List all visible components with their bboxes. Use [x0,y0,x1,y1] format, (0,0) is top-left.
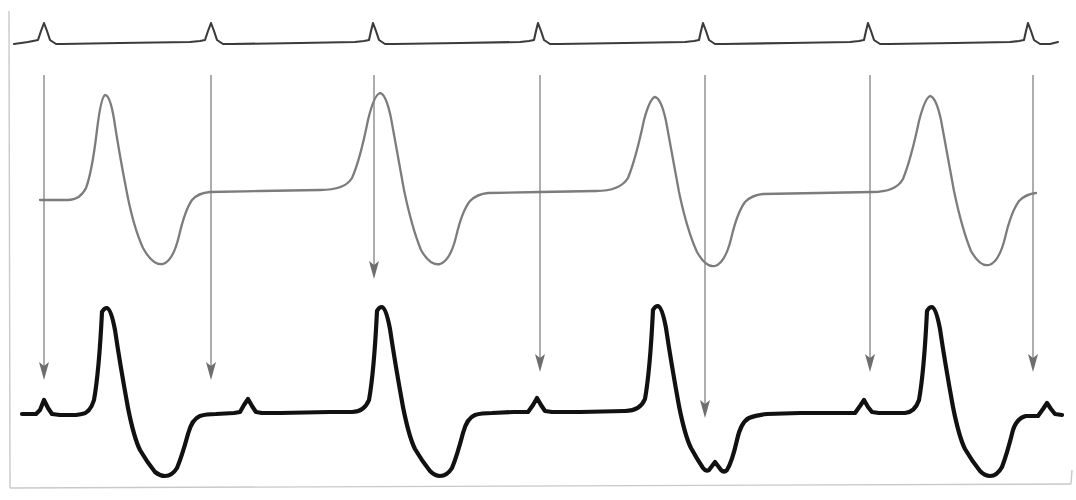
ecg-figure [0,0,1076,500]
conduction-arrow-1 [39,75,49,380]
conduction-arrow-5 [700,75,710,418]
ecg-canvas [0,0,1076,500]
surface-ecg-trace [22,306,1062,476]
conduction-arrow-2 [206,75,216,380]
conduction-arrow-3 [369,75,379,279]
frame-left-edge [9,11,10,488]
atrial-trace [14,23,1058,44]
ventricular-trace [40,93,1036,266]
frame-right-edge [1071,470,1072,484]
conduction-arrow-group [39,75,1038,418]
frame-bottom-edge [10,484,1071,488]
conduction-arrow-7 [1028,75,1038,372]
conduction-arrow-6 [865,75,875,372]
conduction-arrow-4 [535,75,545,372]
